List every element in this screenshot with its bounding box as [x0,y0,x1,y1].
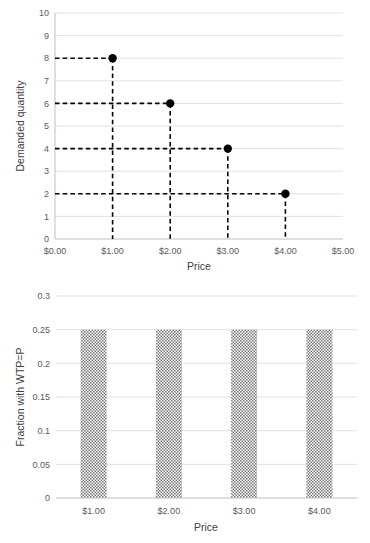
y-tick-label: 5 [44,121,49,131]
data-point-marker [224,144,232,152]
y-tick-label: 0.3 [37,291,50,301]
x-tick-label: $3.00 [217,246,240,256]
y-tick-label: 0 [45,493,50,503]
data-point-marker [166,99,174,107]
y-tick-label: 3 [44,166,49,176]
y-tick-label: 4 [44,144,49,154]
y-tick-label: 1 [44,212,49,222]
x-axis-title: Price [187,260,211,272]
y-axis-title: Demanded quantity [14,80,26,172]
bar [156,330,182,498]
y-tick-label: 0.25 [32,325,50,335]
y-tick-label: 9 [44,31,49,41]
y-tick-label: 0 [44,234,49,244]
y-tick-label: 0.2 [37,359,50,369]
x-tick-label: $1.00 [101,246,124,256]
data-point-marker [281,190,289,198]
y-tick-label: 10 [39,8,49,18]
bar [306,330,332,498]
y-tick-label: 0.1 [37,426,50,436]
y-tick-label: 0.15 [32,392,50,402]
x-tick-label: $5.00 [332,246,355,256]
y-axis-title: Fraction with WTP=P [14,348,26,447]
x-tick-label: $1.00 [82,506,105,516]
y-tick-label: 7 [44,76,49,86]
y-tick-label: 6 [44,99,49,109]
x-tick-label: $0.00 [44,246,67,256]
data-point-marker [108,54,116,62]
x-tick-label: $4.00 [308,506,331,516]
bar [81,330,107,498]
x-tick-label: $2.00 [159,246,182,256]
wtp-fraction-figure: 00.050.10.150.20.250.3$1.00$2.00$3.00$4.… [0,280,370,543]
x-tick-label: $2.00 [158,506,181,516]
demand-curve-plot: 012345678910$0.00$1.00$2.00$3.00$4.00$5.… [0,0,370,280]
y-tick-label: 8 [44,53,49,63]
y-tick-label: 2 [44,189,49,199]
y-tick-label: 0.05 [32,460,50,470]
demand-curve-figure: 012345678910$0.00$1.00$2.00$3.00$4.00$5.… [0,0,370,280]
x-tick-label: $4.00 [274,246,297,256]
x-tick-label: $3.00 [233,506,256,516]
bar [231,330,257,498]
wtp-fraction-plot: 00.050.10.150.20.250.3$1.00$2.00$3.00$4.… [0,280,370,543]
x-axis-title: Price [194,521,218,533]
